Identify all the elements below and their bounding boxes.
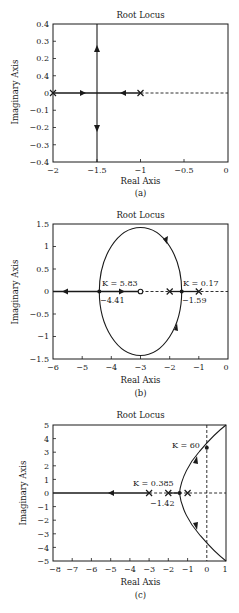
svg-text:3: 3 (44, 448, 49, 457)
svg-text:K = 0.17: K = 0.17 (183, 279, 219, 288)
svg-text:−8: −8 (49, 565, 61, 574)
arrow-up-icon (94, 45, 100, 52)
panel-a: Root Locus Imaginary Axis 0.4 0.3 0.2 0.… (0, 0, 239, 200)
zero-o-icon (138, 289, 143, 294)
arrow-icon (193, 522, 198, 530)
arrow-left-icon (62, 289, 68, 295)
pole-markers (146, 490, 191, 496)
svg-text:0.5: 0.5 (36, 265, 49, 274)
svg-text:−0.3: −0.3 (30, 141, 49, 150)
svg-text:0: 0 (223, 166, 228, 175)
svg-text:0.4: 0.4 (36, 20, 49, 29)
svg-text:−0.5: −0.5 (30, 310, 49, 319)
svg-text:−4.41: −4.41 (100, 296, 125, 305)
svg-text:5: 5 (44, 421, 49, 430)
x-axis-label: Real Axis (53, 577, 228, 587)
svg-text:−1: −1 (37, 332, 49, 341)
svg-text:−0.2: −0.2 (30, 123, 49, 132)
breakpoint-dot (180, 290, 184, 294)
svg-text:−4: −4 (105, 363, 117, 372)
svg-text:−1: −1 (135, 166, 147, 175)
svg-text:−4: −4 (124, 565, 136, 574)
svg-text:−1.5: −1.5 (87, 166, 106, 175)
svg-text:−3: −3 (135, 363, 147, 372)
caption: (b) (53, 388, 228, 398)
svg-text:−1: −1 (37, 503, 49, 512)
svg-text:0: 0 (204, 565, 209, 574)
svg-text:−3: −3 (143, 565, 155, 574)
svg-text:−6: −6 (86, 565, 98, 574)
breakpoint-dot (97, 290, 101, 294)
svg-text:0: 0 (223, 363, 228, 372)
plot-area: 1.5 1 0.5 0 −0.5 −1 −1.5 −6 −5 −4 −3 −2 … (0, 200, 239, 400)
svg-text:0: 0 (44, 89, 49, 98)
x-tick-labels: −2 −1.5 −1 −0.5 0 (47, 166, 228, 175)
svg-text:−3: −3 (37, 530, 49, 539)
panel-c: Root Locus Imaginary Axis 5 4 3 2 1 0 −1… (0, 400, 239, 613)
locus-upper-branch (180, 425, 227, 493)
locus-lower-branch (180, 493, 227, 561)
svg-text:−7: −7 (66, 565, 78, 574)
x-axis-label: Real Axis (53, 176, 228, 186)
svg-text:−2: −2 (37, 516, 49, 525)
svg-text:0.3: 0.3 (36, 37, 49, 46)
svg-text:0.4: 0.4 (36, 72, 49, 81)
arrow-left-icon (108, 490, 114, 496)
caption: (c) (53, 590, 228, 600)
svg-text:1: 1 (44, 476, 49, 485)
svg-text:−2: −2 (162, 565, 174, 574)
arrow-left-icon (120, 90, 126, 96)
y-tick-labels: 0.4 0.3 0.2 0.4 0 −0.1 −0.2 −0.3 −0.4 (30, 20, 49, 167)
svg-text:K = 0.385: K = 0.385 (133, 479, 174, 488)
svg-text:−5: −5 (105, 565, 117, 574)
y-ticks (53, 41, 184, 162)
svg-text:2: 2 (44, 462, 49, 471)
svg-text:4: 4 (44, 435, 49, 444)
svg-text:−1: −1 (193, 363, 205, 372)
svg-text:−2: −2 (47, 166, 59, 175)
svg-text:−0.5: −0.5 (174, 166, 193, 175)
caption: (a) (53, 188, 228, 198)
plot-area: 0.4 0.3 0.2 0.4 0 −0.1 −0.2 −0.3 −0.4 −2… (0, 0, 239, 200)
y-tick-labels: 5 4 3 2 1 0 −1 −2 −3 −4 −5 (37, 421, 49, 566)
svg-text:1.5: 1.5 (36, 220, 49, 229)
ticks (53, 247, 199, 360)
y-tick-labels: 1.5 1 0.5 0 −0.5 −1 −1.5 (30, 220, 49, 364)
svg-text:0: 0 (44, 489, 49, 498)
panel-b: Root Locus Imaginary Axis 1.5 1 0.5 0 −0… (0, 200, 239, 400)
x-tick-labels: −6 −5 −4 −3 −2 −1 0 (47, 363, 228, 372)
svg-text:1: 1 (222, 565, 227, 574)
arrow-down-icon (94, 125, 100, 132)
svg-text:0: 0 (44, 287, 49, 296)
svg-text:−0.4: −0.4 (30, 158, 49, 167)
arrow-right-icon (80, 90, 86, 96)
arrow-right-icon (119, 289, 125, 295)
svg-text:−6: −6 (47, 363, 59, 372)
arrow-icon (193, 456, 198, 464)
svg-text:−2: −2 (164, 363, 176, 372)
svg-text:−1: −1 (182, 565, 194, 574)
svg-text:K = 60: K = 60 (172, 441, 200, 450)
annotations: K = 60 K = 0.385 −1.42 (133, 441, 200, 508)
x-axis-label: Real Axis (53, 375, 228, 385)
svg-text:−0.1: −0.1 (30, 106, 49, 115)
svg-text:1: 1 (44, 242, 49, 251)
svg-text:0.2: 0.2 (36, 54, 49, 63)
svg-text:−1.59: −1.59 (182, 296, 207, 305)
svg-text:K = 5.83: K = 5.83 (102, 279, 138, 288)
svg-text:−5: −5 (37, 557, 49, 566)
svg-text:−1.42: −1.42 (150, 499, 175, 508)
svg-text:−4: −4 (37, 544, 49, 553)
svg-text:−5: −5 (76, 363, 88, 372)
breakpoint-dot (178, 491, 182, 495)
svg-text:−1.5: −1.5 (30, 355, 49, 364)
x-tick-labels: −8 −7 −6 −5 −4 −3 −2 −1 0 1 (49, 565, 227, 574)
crossing-dot (205, 446, 209, 450)
